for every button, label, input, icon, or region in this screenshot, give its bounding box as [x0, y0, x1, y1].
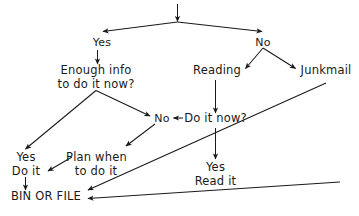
node-junkmail: Junkmail — [297, 64, 355, 77]
node-enough-info: Enough info to do it now? — [38, 64, 154, 91]
node-no-top: No — [251, 36, 275, 49]
edge-no-junkmail — [263, 48, 296, 69]
node-plan-when: Plan when to do it — [66, 151, 126, 178]
edge-split-no — [178, 22, 263, 32]
edge-split-yes — [103, 22, 178, 32]
node-do-it-now: Do it now? — [184, 112, 247, 125]
node-bin-or-file: BIN OR FILE — [10, 190, 82, 203]
node-reading: Reading — [189, 64, 245, 77]
node-yes-top: Yes — [88, 36, 116, 49]
node-yes-do-it: Yes Do it — [3, 151, 49, 178]
flowchart-diagram: Yes No Enough info to do it now? Reading… — [0, 0, 359, 216]
node-no-mid: No — [151, 112, 173, 125]
node-yes-read-it: Yes Read it — [192, 161, 239, 188]
edge-enough-info-no — [96, 91, 150, 117]
flowchart-connectors — [0, 0, 359, 216]
edge-no-mid-plan — [126, 124, 155, 146]
edge-enough-info-yes — [26, 91, 97, 150]
edge-no-reading — [246, 48, 264, 69]
